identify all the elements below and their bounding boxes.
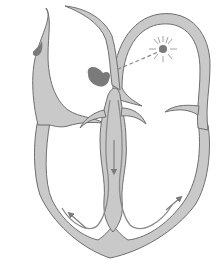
sa-node <box>149 36 177 62</box>
right-bundle-branch <box>118 100 172 228</box>
diagram-canvas <box>0 0 220 268</box>
right-purkinje-arrow <box>166 198 180 210</box>
av-node <box>88 67 110 86</box>
heart-conduction-diagram <box>0 0 220 268</box>
right-atrioventricular-cusp <box>165 105 199 115</box>
